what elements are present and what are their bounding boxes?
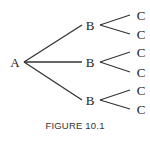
figure-caption: FIGURE 10.1 xyxy=(0,120,150,131)
edge-b3-c5 xyxy=(100,90,130,100)
node-c6: C xyxy=(137,102,146,117)
edge-b1-c2 xyxy=(100,25,130,34)
node-c2: C xyxy=(137,27,146,42)
node-c4: C xyxy=(137,65,146,80)
edge-b2-c4 xyxy=(100,62,130,72)
node-b3: B xyxy=(86,93,95,108)
node-c3: C xyxy=(137,45,146,60)
edge-b3-c6 xyxy=(100,100,130,109)
node-a: A xyxy=(10,55,20,70)
edge-b1-c1 xyxy=(100,15,130,25)
node-b2: B xyxy=(86,55,95,70)
edge-a-b3 xyxy=(24,62,82,100)
edge-b2-c3 xyxy=(100,52,130,62)
edge-a-b1 xyxy=(24,25,82,62)
node-c1: C xyxy=(137,8,146,23)
node-c5: C xyxy=(137,83,146,98)
node-b1: B xyxy=(86,18,95,33)
